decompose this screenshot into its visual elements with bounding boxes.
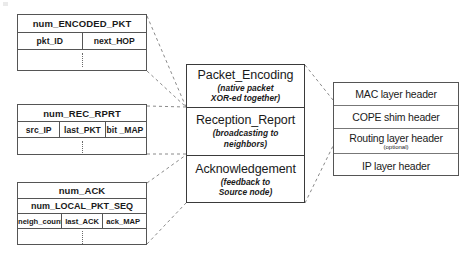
module-subtitle-line-2: neighbors) <box>224 139 267 150</box>
column-label: last_ACK <box>65 217 99 226</box>
table-row: src_IP last_PKT bit _MAP <box>18 122 146 138</box>
column-label: bit _MAP <box>107 125 144 135</box>
column-label: src_IP <box>26 125 52 135</box>
table-row: num_REC_RPRT <box>18 105 146 122</box>
header-ip-layer: IP layer header <box>334 154 458 177</box>
column-header-cell: last_PKT <box>60 122 105 137</box>
header-mac-layer: MAC layer header <box>334 83 458 106</box>
vertical-ellipsis-icon <box>82 141 83 154</box>
module-subtitle-line-1: (feedback to <box>221 177 270 188</box>
column-label: last_PKT <box>64 125 101 135</box>
connector-module-to-headers-top <box>305 65 333 100</box>
module-subtitle-line-2: Source node) <box>219 187 273 198</box>
table-subtitle: num_LOCAL_PKT_SEQ <box>31 201 133 211</box>
column-header-cell: ack_MAP <box>103 214 146 228</box>
table-title: num_ENCODED_PKT <box>33 18 132 29</box>
vertical-ellipsis-icon <box>82 231 83 243</box>
table-num-rec-rprt: num_REC_RPRT src_IP last_PKT bit _MAP <box>17 104 147 155</box>
table-row: neigh_count last_ACK ack_MAP <box>18 214 146 229</box>
table-row: num_LOCAL_PKT_SEQ <box>18 199 146 214</box>
table-row: num_ENCODED_PKT <box>18 15 146 33</box>
scan-artifact <box>3 2 8 6</box>
connector-recrprt-to-report-top <box>147 106 186 107</box>
column-label: ack_MAP <box>106 217 140 226</box>
header-cope-shim: COPE shim header <box>334 106 458 129</box>
packet-header-stack: MAC layer header COPE shim header Routin… <box>333 82 459 176</box>
table-num-ack: num_ACK num_LOCAL_PKT_SEQ neigh_count la… <box>17 182 147 245</box>
table-title: num_REC_RPRT <box>43 108 121 119</box>
table-row: num_ACK <box>18 183 146 199</box>
module-subtitle-line-2: XOR-ed together) <box>211 93 280 104</box>
module-acknowledgement: Acknowledgement (feedback to Source node… <box>187 156 304 204</box>
connector-ack-to-ack-top <box>147 155 186 183</box>
column-label: next_HOP <box>94 36 135 46</box>
column-header-cell: src_IP <box>18 122 60 137</box>
header-routing-layer: Routing layer header (optional) <box>334 129 458 154</box>
module-reception-report: Reception_Report (broadcasting to neighb… <box>187 108 304 156</box>
table-continuation-row <box>18 138 146 156</box>
module-title: Acknowledgement <box>195 162 296 176</box>
column-header-cell: pkt_ID <box>18 33 83 49</box>
table-continuation-row <box>18 229 146 246</box>
table-title: num_ACK <box>59 185 106 196</box>
column-header-cell: next_HOP <box>83 33 147 49</box>
diagram-canvas: num_ENCODED_PKT pkt_ID next_HOP num_REC_… <box>0 0 467 264</box>
vertical-ellipsis-icon <box>82 53 83 67</box>
connector-module-to-headers-bottom <box>305 146 333 203</box>
module-title: Reception_Report <box>196 113 295 127</box>
connector-ack-to-ack-bottom <box>147 203 186 244</box>
header-optional-note: (optional) <box>383 144 408 150</box>
column-header-cell: neigh_count <box>18 214 62 228</box>
table-continuation-row <box>18 50 146 70</box>
column-header-cell: last_ACK <box>62 214 103 228</box>
module-title: Packet_Encoding <box>198 68 294 82</box>
header-title: COPE shim header <box>352 111 439 123</box>
header-title: MAC layer header <box>355 88 436 100</box>
header-title: IP layer header <box>362 160 430 172</box>
header-title: Routing layer header <box>349 132 442 144</box>
module-subtitle-line-1: (broadcasting to <box>213 128 279 139</box>
table-num-encoded-pkt: num_ENCODED_PKT pkt_ID next_HOP <box>17 14 147 71</box>
table-row: pkt_ID next_HOP <box>18 33 146 50</box>
connector-encoded-to-encoding-bottom <box>147 71 186 107</box>
column-label: neigh_count <box>18 217 62 226</box>
column-label: pkt_ID <box>37 36 63 46</box>
column-header-cell: bit _MAP <box>106 122 146 137</box>
module-packet-encoding: Packet_Encoding (native packet XOR-ed to… <box>187 65 304 108</box>
module-subtitle-line-1: (native packet <box>218 83 274 94</box>
coding-module-stack: Packet_Encoding (native packet XOR-ed to… <box>186 64 305 203</box>
connector-encoded-to-encoding-top <box>147 16 186 107</box>
